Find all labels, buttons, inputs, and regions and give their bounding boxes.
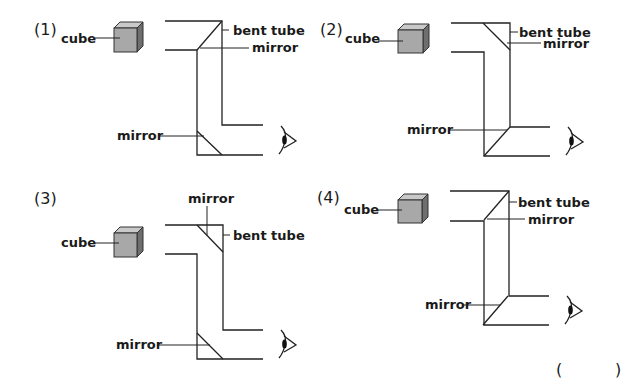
- cube-side-face: [137, 22, 143, 52]
- panel-4: (4) cube bent tube mirror mirror: [317, 188, 590, 325]
- cube-label: cube: [61, 235, 96, 250]
- panel-2: (2) cube bent tube mirror mirror: [320, 20, 591, 156]
- tube-outer-wall: [451, 52, 550, 156]
- top-mirror: [197, 225, 223, 252]
- panel-number: (3): [34, 189, 57, 208]
- panel-number: (2): [320, 20, 343, 39]
- cube-front-face: [114, 28, 137, 52]
- eye-icon: [279, 126, 296, 154]
- answer-box[interactable]: ( ): [556, 360, 621, 379]
- cube-side-face: [137, 227, 143, 257]
- cube-label: cube: [345, 31, 380, 46]
- cube-front-face: [398, 200, 422, 223]
- top-mirror: [483, 23, 510, 50]
- top-mirror-label: mirror: [188, 191, 235, 206]
- periscope-diagram: (1) cube bent tube mirror mirror (: [0, 0, 641, 390]
- cube-label: cube: [344, 202, 379, 217]
- bottom-mirror-label: mirror: [407, 122, 454, 137]
- bent-tube: [165, 225, 263, 359]
- bottom-mirror-label: mirror: [117, 128, 164, 143]
- top-mirror: [484, 191, 509, 220]
- cube: [398, 24, 429, 53]
- top-mirror-label: mirror: [252, 40, 299, 55]
- top-mirror-label: mirror: [528, 212, 575, 227]
- panel-3: (3) cube mirror bent tube mirror: [34, 189, 305, 359]
- tube-label: bent tube: [233, 228, 305, 243]
- bottom-mirror: [483, 296, 508, 325]
- eye-icon: [279, 330, 296, 358]
- cube: [114, 22, 143, 52]
- answer-close-paren: ): [615, 360, 621, 379]
- top-mirror-label: mirror: [543, 36, 590, 51]
- panel-number: (1): [34, 20, 57, 39]
- tube-outer-wall: [165, 254, 263, 359]
- bent-tube: [165, 21, 263, 155]
- bottom-mirror: [484, 127, 510, 156]
- cube-front-face: [114, 233, 137, 257]
- panel-number: (4): [317, 188, 340, 207]
- cube-label: cube: [61, 31, 96, 46]
- eye-icon: [565, 296, 582, 324]
- panel-1: (1) cube bent tube mirror mirror: [34, 20, 305, 155]
- bottom-mirror-label: mirror: [116, 337, 163, 352]
- bottom-mirror: [197, 333, 223, 359]
- tube-outer-wall: [165, 50, 263, 155]
- bottom-mirror: [197, 131, 222, 155]
- cube: [114, 227, 143, 257]
- top-mirror: [197, 21, 222, 50]
- answer-open-paren: (: [556, 360, 562, 379]
- cube: [398, 194, 428, 223]
- eye-icon: [566, 127, 583, 155]
- tube-label: bent tube: [518, 195, 590, 210]
- tube-label: bent tube: [233, 23, 305, 38]
